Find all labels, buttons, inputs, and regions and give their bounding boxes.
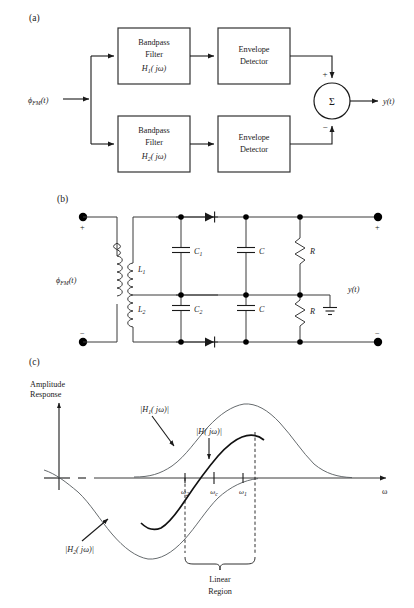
bandpass-filter-2-transfer: H2( jω) [141, 152, 167, 162]
node-dot-2 [243, 214, 249, 220]
transformer-secondary-coils [128, 263, 133, 327]
terminal-plus-left: + [80, 223, 85, 232]
h1-annotation-arrow [152, 416, 174, 446]
capacitor-C-top: C [237, 217, 265, 295]
linear-region-label-line2: Region [208, 587, 232, 596]
omega-c-sub: c [215, 491, 218, 497]
resistor-R-bottom-label: R [309, 307, 315, 316]
svg-text:ϕFM(t): ϕFM(t) [28, 96, 49, 106]
resistor-R-bottom: R [295, 295, 315, 342]
node-dot-9 [297, 339, 303, 345]
panel-b: (b) + − ϕFM(t) L1 [56, 194, 382, 348]
panel-a: (a) ϕFM(t) Bandpass Filter H1( jω) [28, 13, 395, 172]
capacitor-C-bottom: C [237, 295, 265, 342]
bpf2-H-arg: ( jω) [151, 152, 167, 161]
diode-bottom [205, 337, 215, 348]
capacitor-C-top-label: C [259, 247, 265, 256]
R-bottom-zigzag [295, 300, 305, 326]
terminal-output-bottom [374, 338, 382, 346]
node-dot-8 [243, 339, 249, 345]
capacitor-C2-label: C2 [194, 305, 202, 315]
bandpass-filter-2-block[interactable]: Bandpass Filter H2( jω) [118, 116, 190, 172]
omega-2-sub: 2 [186, 491, 189, 497]
omega-1-sub: 1 [244, 491, 247, 497]
bandpass-filter-1-line2: Filter [145, 50, 163, 59]
panel-a-label: (a) [29, 13, 40, 24]
secondary-coil-L2-path [128, 295, 133, 327]
diode-bottom-triangle [205, 338, 214, 347]
inductor-L1-label: L1 [137, 265, 146, 275]
panel-a-input-label: ϕFM(t) [28, 96, 49, 106]
diode-top [205, 212, 215, 223]
node-dot-1 [178, 214, 184, 220]
h2-ann-arg: ( jω)| [76, 545, 94, 554]
diode-top-triangle [205, 213, 214, 222]
h1-annotation-label: |H1( jω)| [140, 405, 169, 415]
bandpass-filter-1-transfer: H1( jω) [141, 64, 167, 74]
envelope-detector-1-line2: Detector [240, 57, 268, 66]
linear-region-brace [185, 557, 255, 570]
y-axis-title-line2: Response [30, 390, 62, 399]
node-dot-5 [243, 292, 249, 298]
summing-junction[interactable]: Σ [314, 83, 350, 119]
primary-coil-path [117, 256, 122, 296]
phi-arg-b: (t) [69, 276, 77, 285]
figure-root: (a) ϕFM(t) Bandpass Filter H1( jω) [0, 0, 414, 608]
envelope-detector-1-box[interactable] [218, 28, 290, 84]
resistor-R-top-label: R [309, 247, 315, 256]
terminal-plus-right: + [375, 223, 380, 232]
tick-label-omega-c: ωc [210, 488, 218, 497]
capacitor-C2: C2 [172, 295, 202, 342]
envelope-detector-2-line1: Envelope [239, 133, 270, 142]
envelope-detector-2-line2: Detector [240, 145, 268, 154]
envelope-detector-1-block[interactable]: Envelope Detector [218, 28, 290, 84]
terminal-minus-left: − [80, 329, 85, 338]
h1-response-curve [134, 404, 352, 478]
resistor-R-top: R [295, 217, 315, 295]
h2-annotation-arrow [82, 519, 108, 541]
summer-minus-sign: − [322, 122, 327, 132]
terminal-output-top [374, 213, 382, 221]
bandpass-filter-1-block[interactable]: Bandpass Filter H1( jω) [118, 28, 190, 84]
R-top-zigzag [295, 238, 305, 264]
panel-b-label: (b) [57, 194, 68, 205]
panel-c-label: (c) [29, 357, 40, 368]
primary-bottom-wire [83, 304, 117, 342]
bandpass-filter-2-line2: Filter [145, 138, 163, 147]
ground-symbol [323, 295, 337, 315]
capacitor-C1: C1 [172, 217, 202, 295]
phi-arg: (t) [41, 96, 49, 105]
inductor-L2-label: L2 [137, 305, 146, 315]
h1-ann-arg: ( jω)| [151, 405, 169, 414]
y-arg-a: (t) [387, 97, 395, 106]
y-axis-title-line1: Amplitude [30, 380, 65, 389]
node-dot-4 [178, 292, 184, 298]
h-annotation-label: |H( jω)| [196, 427, 222, 436]
primary-top-wire [83, 217, 117, 256]
envelope-detector-2-block[interactable]: Envelope Detector [218, 116, 290, 172]
C1-sub: 1 [199, 251, 202, 257]
sigma-symbol: Σ [329, 96, 335, 107]
y-arg-b: (t) [352, 285, 360, 294]
x-axis-label: ω [382, 487, 388, 496]
bandpass-filter-1-line1: Bandpass [138, 38, 169, 47]
node-dot-6 [297, 292, 303, 298]
node-dot-7 [178, 339, 184, 345]
secondary-coil-L1-path [128, 263, 133, 295]
L1-sub: 1 [143, 269, 146, 275]
capacitor-C1-label: C1 [194, 247, 202, 257]
h2-annotation-label: |H2( jω)| [65, 545, 94, 555]
node-dot-3 [297, 214, 303, 220]
h-ann-arg: ( jω)| [204, 427, 222, 436]
capacitor-C-bottom-label: C [259, 305, 265, 314]
panel-a-output-label: y(t) [382, 97, 395, 106]
tick-label-omega-1: ω1 [239, 488, 247, 497]
panel-c: (c) Amplitude Response ω ω2 [29, 357, 388, 596]
bandpass-filter-2-line1: Bandpass [138, 126, 169, 135]
panel-b-output-label: y(t) [347, 285, 360, 294]
h-composite-curve [141, 435, 264, 529]
envelope-detector-2-box[interactable] [218, 116, 290, 172]
textbook-figure-svg: (a) ϕFM(t) Bandpass Filter H1( jω) [0, 0, 414, 608]
L2-sub: 2 [143, 309, 146, 315]
linear-region-label-line1: Linear [209, 575, 231, 584]
